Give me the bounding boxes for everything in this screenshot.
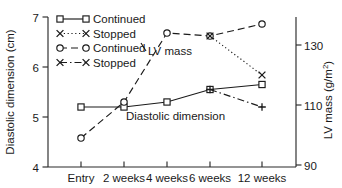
- line-chart: 7 6 5 4 Diastolic dimension (cm) 130 110…: [0, 0, 342, 188]
- legend-marker-end: [83, 16, 89, 22]
- annotation-diastolic-dimension: Diastolic dimension: [126, 110, 225, 122]
- annotation-lv-mass: LV mass: [148, 45, 192, 57]
- x-axis-label-4-weeks: 4 weeks: [146, 172, 188, 184]
- x-axis-label-entry: Entry: [68, 172, 95, 184]
- left-axis-tick-4: 4: [33, 162, 40, 174]
- right-axis-tick-90: 90: [304, 160, 317, 172]
- data-point-marker: [78, 104, 84, 110]
- legend-item-2: Continued: [57, 42, 146, 54]
- right-axis-title-tail: ): [322, 61, 334, 65]
- chart-annotations: LV mass Diastolic dimension: [126, 43, 225, 122]
- x-axis: Entry 2 weeks 4 weeks 6 weeks 12 weeks: [48, 162, 296, 185]
- series-line: [210, 90, 262, 108]
- series-line: [210, 36, 262, 75]
- right-axis-title-main: LV mass (g/m: [322, 69, 334, 139]
- legend-label: Continued: [93, 13, 145, 25]
- data-point-marker: [121, 99, 127, 105]
- data-point-marker: [259, 81, 265, 87]
- data-point-marker: [164, 30, 170, 36]
- legend-marker-end: [83, 59, 90, 66]
- chart-figure: 7 6 5 4 Diastolic dimension (cm) 130 110…: [0, 0, 342, 188]
- data-point-marker: [164, 99, 170, 105]
- left-axis-tick-6: 6: [33, 62, 39, 74]
- data-point-marker: [78, 135, 84, 141]
- chart-legend: ContinuedStoppedContinuedStopped: [57, 13, 146, 69]
- left-axis-tick-7: 7: [33, 12, 39, 24]
- legend-marker-start: [57, 16, 63, 22]
- legend-label: Stopped: [93, 57, 136, 69]
- right-axis-tick-130: 130: [304, 40, 323, 52]
- x-axis-label-6-weeks: 6 weeks: [189, 172, 231, 184]
- series-lv-mass-stopped: [207, 33, 266, 79]
- data-point-marker: [259, 72, 266, 79]
- legend-marker-end: [83, 45, 89, 51]
- series-line: [81, 85, 262, 108]
- legend-item-1: Stopped: [57, 28, 136, 40]
- left-axis-tick-5: 5: [33, 112, 39, 124]
- legend-label: Stopped: [93, 28, 136, 40]
- data-point-marker: [258, 103, 266, 111]
- right-axis-tick-110: 110: [304, 100, 322, 112]
- legend-marker-start: [57, 30, 64, 37]
- x-axis-label-12-weeks: 12 weeks: [238, 172, 287, 184]
- legend-label: Continued: [93, 42, 145, 54]
- legend-marker-start: [57, 45, 63, 51]
- data-point-marker: [259, 21, 265, 27]
- left-axis-title: Diastolic dimension (cm): [4, 29, 16, 154]
- series-diastolic-dimension-continued: [78, 81, 265, 110]
- legend-item-0: Continued: [57, 13, 146, 25]
- right-axis: 130 110 90 LV mass (g/m2): [296, 17, 334, 172]
- left-axis: 7 6 5 4 Diastolic dimension (cm): [4, 12, 48, 174]
- x-axis-label-2-weeks: 2 weeks: [103, 172, 145, 184]
- right-axis-title: LV mass (g/m2): [321, 61, 334, 140]
- legend-item-3: Stopped: [57, 57, 136, 69]
